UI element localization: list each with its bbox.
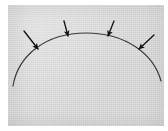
diagram-panel [8, 5, 164, 126]
figure-root [0, 0, 168, 131]
panel-vignette [8, 5, 164, 126]
panel-texture [8, 5, 164, 126]
